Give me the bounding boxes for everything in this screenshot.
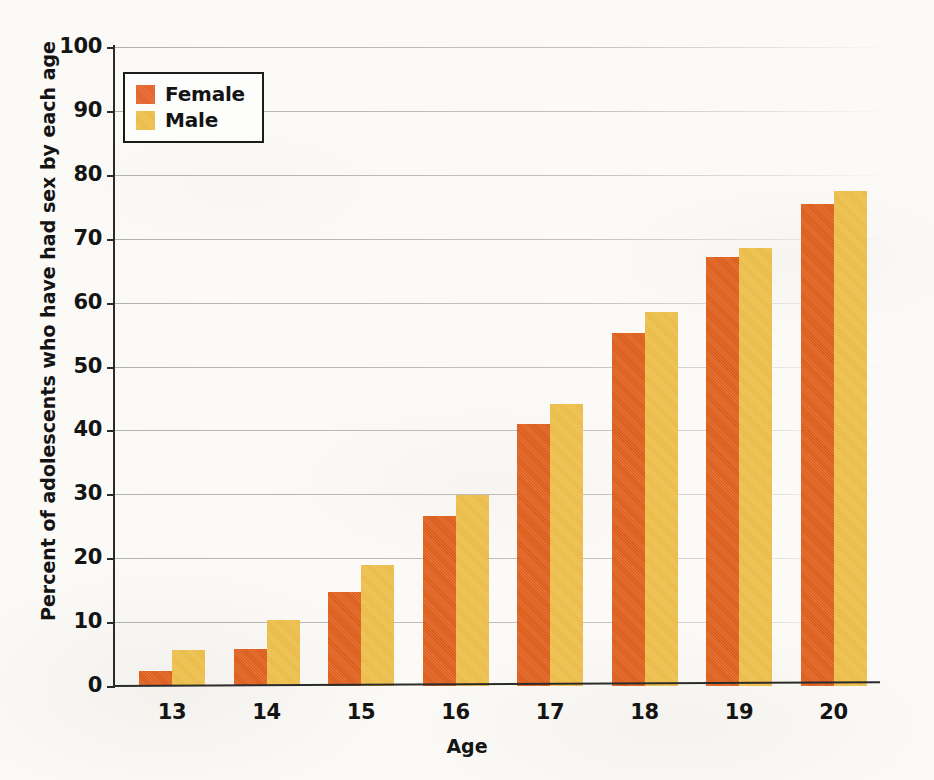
y-tick-mark [107, 494, 114, 496]
x-tick-label-14: 14 [237, 700, 297, 724]
bar-female-age-14 [234, 649, 267, 686]
x-tick-label-17: 17 [520, 700, 580, 724]
bar-male-age-20 [834, 191, 867, 686]
y-tick-mark [107, 111, 114, 113]
x-tick-label-15: 15 [331, 700, 391, 724]
gridline [113, 239, 880, 240]
bar-male-age-16 [456, 495, 489, 686]
bar-male-age-18 [645, 312, 678, 686]
bar-male-age-15 [361, 565, 394, 686]
y-tick-mark [107, 686, 114, 688]
legend-item-female[interactable]: Female [136, 81, 245, 107]
legend-swatch-male-icon [136, 111, 155, 130]
y-tick-mark [107, 558, 114, 560]
legend-label-male: Male [165, 108, 218, 132]
bar-male-age-14 [267, 620, 300, 686]
x-tick-label-19: 19 [709, 700, 769, 724]
y-tick-label: 0 [40, 673, 102, 697]
bar-female-age-20 [801, 204, 834, 686]
legend-item-male[interactable]: Male [136, 107, 245, 133]
bar-female-age-17 [517, 424, 550, 686]
y-tick-mark [107, 367, 114, 369]
y-tick-mark [107, 47, 114, 49]
gridline [113, 47, 880, 48]
bar-female-age-19 [706, 257, 739, 686]
y-tick-mark [107, 430, 114, 432]
bar-male-age-19 [739, 248, 772, 686]
y-tick-mark [107, 239, 114, 241]
y-tick-mark [107, 622, 114, 624]
x-axis-title: Age [0, 735, 934, 757]
legend-swatch-female-icon [136, 85, 155, 104]
bar-female-age-18 [612, 333, 645, 686]
chart-page: 0102030405060708090100 1314151617181920 … [0, 0, 934, 780]
gridline [113, 175, 880, 176]
bar-female-age-16 [423, 516, 456, 686]
y-tick-mark [107, 303, 114, 305]
bar-female-age-15 [328, 592, 361, 686]
x-tick-label-20: 20 [804, 700, 864, 724]
y-tick-mark [107, 175, 114, 177]
legend-label-female: Female [165, 82, 245, 106]
y-axis-title: Percent of adolescents who have had sex … [37, 61, 59, 621]
x-tick-label-18: 18 [615, 700, 675, 724]
x-tick-label-16: 16 [426, 700, 486, 724]
bar-male-age-13 [172, 650, 205, 686]
bar-male-age-17 [550, 404, 583, 686]
x-tick-label-13: 13 [142, 700, 202, 724]
chart-legend: Female Male [123, 72, 264, 143]
